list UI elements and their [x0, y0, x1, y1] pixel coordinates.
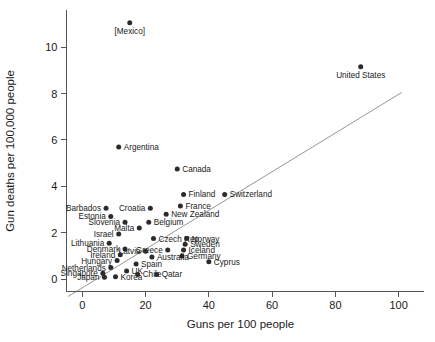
x-tick-label: 0	[79, 299, 85, 311]
x-tick-label: 100	[390, 299, 408, 311]
data-point	[181, 192, 186, 197]
data-point	[154, 272, 159, 277]
data-point	[149, 255, 154, 260]
data-point	[116, 144, 121, 149]
data-point-label: Cyprus	[214, 258, 240, 267]
data-point	[104, 206, 109, 211]
scatter-chart: 0204060801000246810 [Mexico]United State…	[0, 0, 435, 342]
y-tick-label: 2	[51, 227, 57, 239]
data-point	[116, 231, 121, 236]
data-point-label: Japan	[77, 273, 100, 282]
data-point	[151, 236, 156, 241]
x-tick-label: 80	[329, 299, 341, 311]
data-point-label: Argentina	[124, 143, 159, 152]
data-point	[222, 192, 227, 197]
x-tick-label: 20	[139, 299, 151, 311]
data-point-label: Finland	[189, 190, 216, 199]
data-point	[165, 248, 170, 253]
data-point	[148, 206, 153, 211]
x-axis-title: Guns per 100 people	[187, 318, 294, 330]
data-point	[115, 258, 120, 263]
y-tick-label: 4	[51, 180, 57, 192]
y-tick-label: 8	[51, 88, 57, 100]
data-point	[164, 212, 169, 217]
data-point	[135, 272, 140, 277]
data-point	[143, 249, 148, 254]
data-point	[175, 166, 180, 171]
data-point	[358, 64, 363, 69]
data-point	[108, 265, 113, 270]
data-points-group: [Mexico]United StatesArgentinaCanadaSwit…	[61, 20, 386, 282]
data-point	[113, 274, 118, 279]
data-point-label: United States	[336, 71, 385, 80]
y-tick-label: 0	[51, 273, 57, 285]
data-point	[183, 242, 188, 247]
data-point	[137, 226, 142, 231]
data-point	[102, 275, 107, 280]
y-axis-title: Gun deaths per 100,000 people	[4, 70, 16, 232]
data-point	[146, 220, 151, 225]
data-point-label: Qatar	[162, 270, 183, 279]
data-point	[118, 252, 123, 257]
y-tick-label: 10	[45, 41, 57, 53]
axis-titles-group: Guns per 100 peopleGun deaths per 100,00…	[4, 70, 294, 330]
x-tick-label: 40	[203, 299, 215, 311]
data-point-label: Canada	[182, 165, 211, 174]
data-point	[181, 248, 186, 253]
data-point	[206, 259, 211, 264]
data-point-label: Malta	[114, 224, 134, 233]
data-point	[178, 204, 183, 209]
data-point-label: Belgium	[154, 218, 184, 227]
plot-area: 0204060801000246810 [Mexico]United State…	[0, 0, 435, 342]
data-point-label: [Mexico]	[115, 27, 145, 36]
y-tick-label: 6	[51, 134, 57, 146]
data-point-label: Israel	[94, 230, 114, 239]
data-point	[134, 262, 139, 267]
data-point	[184, 236, 189, 241]
data-point	[127, 20, 132, 25]
data-point-label: Croatia	[119, 204, 146, 213]
data-point-label: Switzerland	[230, 190, 273, 199]
data-point-label: Spain	[141, 260, 162, 269]
x-tick-label: 60	[266, 299, 278, 311]
